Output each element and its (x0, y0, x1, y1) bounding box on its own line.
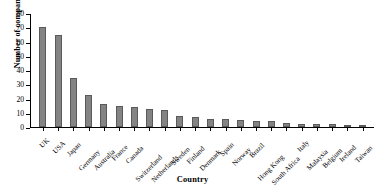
bar (222, 119, 229, 127)
x-tick-label-text: Norway (231, 146, 253, 168)
plot-area: 01020304050607080 (30, 14, 374, 128)
bar-slot (111, 14, 126, 127)
bar-slot (35, 14, 50, 127)
y-tick-label: 20 (16, 96, 24, 104)
bar (298, 124, 305, 127)
bar (313, 124, 320, 127)
bar (207, 119, 214, 127)
bar (39, 27, 46, 127)
x-tick-label: Canada (141, 130, 162, 151)
x-tick-label-text: USA (52, 140, 68, 156)
bar-slot (66, 14, 81, 127)
bar-slot (188, 14, 203, 127)
bar (268, 121, 275, 127)
bar (55, 35, 62, 127)
y-tick-label: 70 (16, 24, 24, 32)
bar-slot (96, 14, 111, 127)
bar-slot (142, 14, 157, 127)
y-tick-label: 30 (16, 81, 24, 89)
bar (253, 121, 260, 127)
bar (131, 107, 138, 127)
y-tick-label: 60 (16, 39, 24, 47)
y-tick-label: 10 (16, 110, 24, 118)
bar-slot (325, 14, 340, 127)
x-tick-label-text: UK (39, 137, 52, 150)
bar-slot (51, 14, 66, 127)
bar-slot (157, 14, 172, 127)
x-tick-label-text: Japan (67, 142, 84, 159)
bar-slot (355, 14, 370, 127)
bar-slot (340, 14, 355, 127)
bar (192, 117, 199, 127)
bar (237, 120, 244, 127)
bar (85, 95, 92, 127)
bar (359, 125, 366, 127)
y-tick-label: 40 (16, 67, 24, 75)
bar (70, 78, 77, 127)
x-tick-label: UK (46, 130, 59, 143)
bar-slot (279, 14, 294, 127)
y-tick-label: 80 (16, 10, 24, 18)
bar (329, 124, 336, 127)
bar (161, 110, 168, 127)
x-axis-line (30, 127, 374, 128)
y-tick-mark (26, 128, 30, 129)
bar-slot (233, 14, 248, 127)
bar-slot (127, 14, 142, 127)
bar (283, 123, 290, 127)
bar (146, 109, 153, 127)
x-tick-label: Japan (78, 130, 95, 147)
bar-slot (81, 14, 96, 127)
bar-slot (172, 14, 187, 127)
bar-slot (264, 14, 279, 127)
bar (176, 116, 183, 127)
bar-slot (248, 14, 263, 127)
bar-series (30, 14, 374, 127)
x-axis-tick-labels: UKUSAJapanGermanyAustraliaFranceCanadaSw… (30, 130, 374, 176)
bar (100, 104, 107, 127)
bar-chart: Number of companies 01020304050607080 UK… (0, 0, 385, 192)
x-axis-title: Country (0, 175, 385, 184)
bar (344, 125, 351, 127)
y-tick-label: 50 (16, 53, 24, 61)
bar-slot (309, 14, 324, 127)
bar (116, 106, 123, 127)
y-tick-label: 0 (20, 124, 24, 132)
bar-slot (218, 14, 233, 127)
bar-slot (203, 14, 218, 127)
bar-slot (294, 14, 309, 127)
